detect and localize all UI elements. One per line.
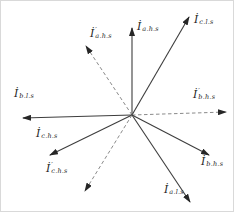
vector-label-i-prime-a-hs: İ′a.h.s (90, 28, 112, 40)
phasor-script-stack: ′a.h.s (95, 28, 112, 40)
phasor-subscript: c.h.s (41, 133, 57, 140)
vector-line-i-b-ls (23, 115, 132, 118)
vector-label-i-c-hs: İc.h.s (36, 128, 58, 140)
vector-label-i-b-ls: İb.l.s (14, 88, 34, 100)
vector-svg (1, 1, 234, 212)
phasor-subscript: c.l.s (199, 19, 213, 26)
phasor-symbol: İ (193, 89, 197, 100)
phasor-subscript: b.h.s (198, 94, 215, 101)
phasor-symbol: İ (14, 88, 18, 99)
vector-label-i-prime-b-hs: İ′b.h.s (193, 89, 215, 101)
phasor-subscript: a.h.s (95, 33, 112, 40)
phasor-symbol: İ (137, 21, 141, 32)
phasor-subscript: a.h.s (142, 26, 159, 33)
vector-line-i-c-hs (50, 115, 132, 155)
phasor-symbol: İ (46, 163, 50, 174)
phasor-symbol: İ (201, 156, 205, 167)
phasor-script-stack: b.h.s (206, 156, 223, 168)
phasor-symbol: İ (90, 28, 94, 39)
phasor-script-stack: a.h.s (142, 21, 159, 33)
phasor-subscript: c.h.s (51, 168, 67, 175)
phasor-symbol: İ (36, 128, 40, 139)
phasor-symbol: İ (194, 14, 198, 25)
phasor-symbol: İ (164, 184, 168, 195)
vector-line-i-b-hs (132, 115, 209, 155)
vector-label-i-a-ls: İa.l.s (164, 184, 184, 196)
phasor-subscript: b.h.s (206, 161, 223, 168)
vector-line-i-prime-a-hs (86, 46, 132, 115)
phasor-script-stack: ′b.h.s (198, 89, 215, 101)
vector-label-i-a-hs: İa.h.s (137, 21, 159, 33)
vector-label-i-prime-c-hs: İ′c.h.s (46, 163, 68, 175)
vector-label-i-c-ls: İc.l.s (194, 14, 214, 26)
phasor-script-stack: c.h.s (41, 128, 57, 140)
phasor-diagram: İa.h.sİc.l.sİ′a.h.sİb.l.sİ′b.h.sİc.h.sİ′… (0, 0, 234, 212)
vector-label-i-b-hs: İb.h.s (201, 156, 223, 168)
vector-line-i-prime-b-hs (132, 112, 226, 115)
phasor-script-stack: b.l.s (19, 88, 34, 100)
phasor-script-stack: a.l.s (169, 184, 183, 196)
phasor-script-stack: ′c.h.s (51, 163, 67, 175)
phasor-subscript: b.l.s (19, 93, 34, 100)
phasor-script-stack: c.l.s (199, 14, 213, 26)
phasor-subscript: a.l.s (169, 189, 183, 196)
